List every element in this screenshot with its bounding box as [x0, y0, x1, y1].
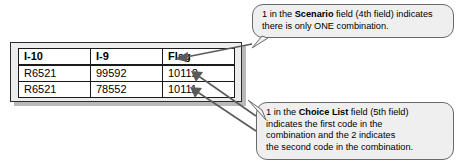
cell-i9: 78552	[91, 82, 163, 98]
callout-choice-line-3: combination and the 2 indicates	[266, 130, 445, 142]
callout-text-part: the second code in the combination.	[266, 142, 413, 152]
cell-flag: 10111	[163, 82, 235, 98]
column-header-i10: I-10	[19, 49, 91, 66]
callout-text-part: field (5th field)	[348, 107, 408, 117]
callout-scenario: 1 in the Scenario field (4th field) indi…	[252, 4, 454, 38]
callout-scenario-line-1: 1 in the Scenario field (4th field) indi…	[262, 9, 445, 21]
figure-container: I-10 I-9 Flag R6521 99592 10112 R6521 78…	[0, 0, 458, 166]
callout-text-bold: Choice List	[299, 107, 349, 117]
table-header-row: I-10 I-9 Flag	[19, 49, 235, 66]
callout-text-part: indicates the first code in the	[266, 119, 382, 129]
column-header-flag: Flag	[163, 49, 235, 66]
code-table: I-10 I-9 Flag R6521 99592 10112 R6521 78…	[18, 48, 235, 98]
callout-text-part: 1 in the	[262, 9, 295, 19]
callout-choice-line-1: 1 in the Choice List field (5th field)	[266, 107, 445, 119]
callout-text-part: 1 in the	[266, 107, 299, 117]
cell-i10: R6521	[19, 65, 91, 82]
callout-choice-list: 1 in the Choice List field (5th field) i…	[256, 102, 454, 160]
column-header-i9: I-9	[91, 49, 163, 66]
callout-choice-line-2: indicates the first code in the	[266, 119, 445, 131]
callout-text-part: combination and the 2 indicates	[266, 130, 395, 140]
callout-choice-line-4: the second code in the combination.	[266, 142, 445, 154]
cell-flag: 10112	[163, 65, 235, 82]
callout-text-bold: Scenario	[295, 9, 334, 19]
callout-text-part: field (4th field) indicates	[334, 9, 433, 19]
table-row: R6521 99592 10112	[19, 65, 235, 82]
table-row: R6521 78552 10111	[19, 82, 235, 98]
cell-i10: R6521	[19, 82, 91, 98]
cell-i9: 99592	[91, 65, 163, 82]
callout-text-part: there is only ONE combination.	[262, 21, 389, 31]
callout-scenario-line-2: there is only ONE combination.	[262, 21, 445, 33]
